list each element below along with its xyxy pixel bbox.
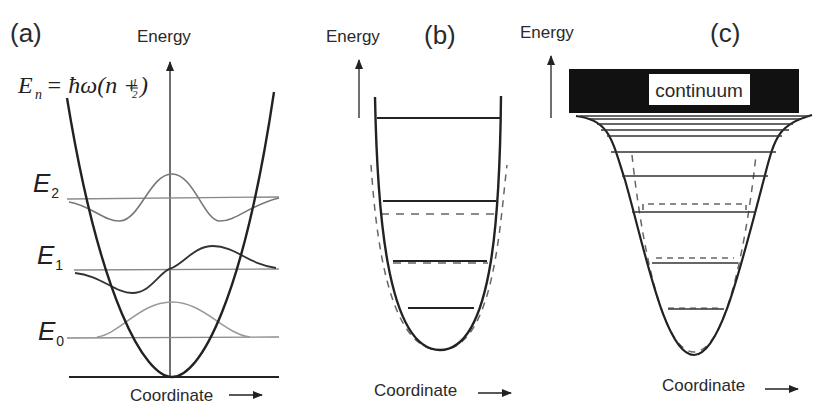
panel-c-harmonic-reference — [632, 155, 756, 352]
panel-c: Energy (c) continuum Coordinate — [520, 18, 812, 395]
panel-c-energy-label: Energy — [520, 23, 574, 42]
equation-frac-num: 1 — [132, 76, 138, 88]
morse-potential-curve — [576, 115, 812, 355]
panel-a-energy-label: Energy — [137, 27, 191, 46]
level-label-e0: E0 — [38, 316, 64, 349]
level-label-e1: E1 — [37, 240, 63, 273]
panel-a-label: (a) — [10, 18, 42, 48]
panel-a: (a) Energy E n = ħω(n + 1 2 ) E2 E1 E0 — [10, 18, 279, 405]
equation-lhs: E — [17, 72, 33, 98]
level-line-e2 — [67, 197, 279, 199]
panel-c-label: (c) — [710, 18, 740, 48]
level-label-e2: E2 — [33, 168, 59, 201]
equation-rhs: = ħω(n + — [46, 72, 139, 98]
quantum-oscillator-figure: (a) Energy E n = ħω(n + 1 2 ) E2 E1 E0 — [0, 0, 832, 413]
equation-frac-den: 2 — [132, 88, 138, 100]
panel-b-label: (b) — [424, 20, 456, 50]
panel-b-energy-label: Energy — [326, 27, 380, 46]
panel-b-potential-curve — [375, 96, 501, 350]
panel-c-dashed-level-2 — [643, 204, 746, 210]
panel-c-coordinate-label: Coordinate — [662, 376, 745, 395]
equation-close-paren: ) — [138, 72, 148, 98]
panel-b: Energy (b) Coordinate — [326, 20, 511, 400]
energy-equation: E n = ħω(n + 1 2 ) — [17, 72, 148, 102]
continuum-label: continuum — [655, 80, 743, 101]
equation-lhs-sub: n — [35, 87, 42, 102]
panel-a-coordinate-label: Coordinate — [130, 386, 213, 405]
harmonic-reference-curve — [371, 165, 507, 350]
panel-b-coordinate-label: Coordinate — [374, 381, 457, 400]
